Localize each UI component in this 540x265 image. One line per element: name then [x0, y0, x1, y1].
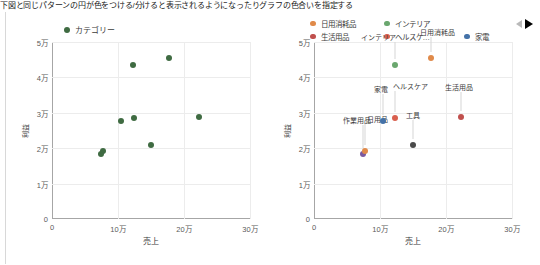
legend-dot-icon: [64, 27, 70, 33]
legend-dot-icon: [310, 21, 316, 27]
x-axis-tick-label: 0: [312, 223, 316, 232]
y-axis-tick-label: 2万: [299, 143, 310, 154]
label-leader-line: [365, 124, 366, 145]
y-axis-tick-label: 4万: [299, 72, 310, 83]
y-axis-tick-label: 1万: [37, 178, 48, 189]
label-leader-line: [413, 120, 414, 139]
gridline-horizontal: [52, 42, 250, 43]
left-y-axis-title: 利益: [20, 124, 30, 138]
right-scatter-chart: 日用消耗品 インテリア 生活用品 ヘルスケ… 家電: [268, 12, 539, 264]
right-x-axis-title: 売上: [405, 235, 421, 246]
label-leader-line: [460, 92, 461, 111]
legend-pager[interactable]: [516, 19, 533, 29]
right-y-axis-title: 利益: [282, 124, 292, 138]
screenshot-root: 下図と同じパターンの円が色をつける/分けると表示されるようになったりグラフの色合…: [0, 0, 540, 265]
data-point-label: ヘルスケア: [393, 81, 428, 91]
data-point[interactable]: [428, 55, 434, 61]
data-point[interactable]: [196, 114, 202, 120]
y-axis-tick-label: 4万: [37, 72, 48, 83]
legend-item-daily-consumables[interactable]: 日用消耗品: [310, 18, 384, 29]
left-chart-legend: カテゴリー: [64, 24, 115, 35]
gridline-vertical: [512, 42, 513, 219]
label-leader-line: [382, 94, 383, 115]
x-axis-tick-label: 30万: [504, 223, 519, 234]
legend-item-category[interactable]: カテゴリー: [64, 24, 115, 35]
data-point[interactable]: [148, 142, 154, 148]
right-y-axis: [314, 42, 315, 219]
gridline-horizontal: [52, 184, 250, 185]
label-leader-line: [394, 42, 395, 59]
gridline-vertical: [250, 42, 251, 219]
data-point[interactable]: [130, 62, 136, 68]
x-axis-tick-label: 20万: [176, 223, 191, 234]
data-point[interactable]: [410, 142, 416, 148]
left-x-axis: [52, 218, 250, 219]
legend-dot-icon: [384, 21, 390, 27]
data-point[interactable]: [458, 114, 464, 120]
y-axis-tick-label: 0: [44, 215, 48, 224]
left-scatter-chart: カテゴリー 利益 売上 010万20万30万01万2万3万4万5万: [6, 12, 268, 264]
gridline-horizontal: [52, 77, 250, 78]
gridline-horizontal: [314, 42, 512, 43]
legend-label: 日用消耗品: [321, 18, 356, 29]
data-point-label: インテリア: [361, 32, 396, 42]
legend-dot-icon: [464, 34, 470, 40]
top-caption-text: 下図と同じパターンの円が色をつける/分けると表示されるようになったりグラフの色合…: [0, 0, 540, 11]
data-point-label: 日用消耗品: [420, 27, 455, 37]
gridline-vertical: [380, 42, 381, 219]
x-axis-tick-label: 10万: [372, 223, 387, 234]
y-axis-tick-label: 1万: [299, 178, 310, 189]
label-leader-line: [394, 91, 395, 112]
y-axis-tick-label: 0: [306, 215, 310, 224]
gridline-horizontal: [314, 148, 512, 149]
data-point-label: 工具: [406, 110, 420, 120]
x-axis-tick-label: 10万: [110, 223, 125, 234]
gridline-horizontal: [52, 148, 250, 149]
gridline-vertical: [118, 42, 119, 219]
gridline-horizontal: [314, 77, 512, 78]
left-x-axis-title: 売上: [143, 235, 159, 246]
left-y-axis: [52, 42, 53, 219]
charts-panel: カテゴリー 利益 売上 010万20万30万01万2万3万4万5万 日用消耗品 …: [5, 12, 539, 264]
x-axis-tick-label: 0: [50, 223, 54, 232]
legend-label: 家電: [475, 31, 489, 42]
right-chart-legend: 日用消耗品 インテリア 生活用品 ヘルスケ… 家電: [310, 18, 525, 42]
data-point[interactable]: [131, 115, 137, 121]
data-point[interactable]: [392, 62, 398, 68]
data-point[interactable]: [100, 148, 106, 154]
right-x-axis: [314, 218, 512, 219]
data-point-label: 生活用品: [445, 82, 473, 92]
right-plot-area[interactable]: 利益 売上 010万20万30万01万2万3万4万5万作業用品日用品家電ヘルスケ…: [314, 42, 512, 219]
y-axis-tick-label: 3万: [299, 107, 310, 118]
data-point[interactable]: [118, 118, 124, 124]
gridline-horizontal: [314, 184, 512, 185]
data-point[interactable]: [392, 115, 398, 121]
legend-dot-icon: [310, 34, 316, 40]
legend-label: 生活用品: [321, 31, 349, 42]
arrow-right-icon[interactable]: [525, 19, 533, 29]
gridline-vertical: [184, 42, 185, 219]
left-plot-area[interactable]: 利益 売上 010万20万30万01万2万3万4万5万: [52, 42, 250, 219]
label-leader-line: [431, 37, 432, 52]
x-axis-tick-label: 20万: [438, 223, 453, 234]
data-point[interactable]: [166, 55, 172, 61]
x-axis-tick-label: 30万: [242, 223, 257, 234]
arrow-left-icon[interactable]: [516, 20, 522, 28]
legend-item-appliances[interactable]: 家電: [464, 31, 524, 42]
data-point[interactable]: [362, 148, 368, 154]
y-axis-tick-label: 5万: [37, 37, 48, 48]
legend-label: カテゴリー: [75, 24, 115, 35]
gridline-horizontal: [52, 113, 250, 114]
y-axis-tick-label: 3万: [37, 107, 48, 118]
y-axis-tick-label: 2万: [37, 143, 48, 154]
label-leader-line: [362, 125, 363, 148]
gridline-vertical: [446, 42, 447, 219]
data-point-label: 家電: [374, 84, 388, 94]
data-point[interactable]: [380, 118, 386, 124]
y-axis-tick-label: 5万: [299, 37, 310, 48]
